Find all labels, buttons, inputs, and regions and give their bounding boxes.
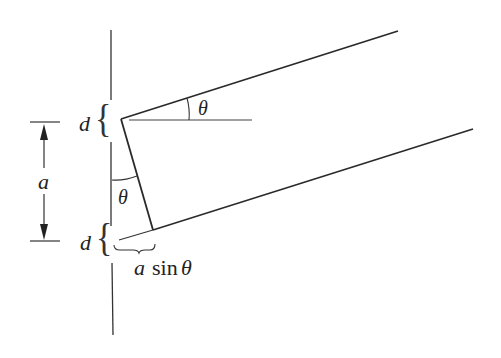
vertical-wall-line bbox=[111, 30, 113, 335]
label-theta-left: θ bbox=[118, 186, 128, 208]
label-theta-top: θ bbox=[198, 97, 208, 119]
label-a-sin-theta: a sin θ bbox=[134, 255, 192, 280]
label-d-bottom: d bbox=[80, 230, 92, 255]
label-a-sin-theta-sin: sin bbox=[152, 255, 178, 280]
label-a-sin-theta-a: a bbox=[134, 255, 145, 280]
a-sin-theta-brace bbox=[114, 244, 155, 253]
angle-arc-top bbox=[187, 98, 189, 120]
label-a-sin-theta-theta: θ bbox=[181, 255, 192, 280]
lower-extension-line bbox=[119, 230, 153, 240]
segment-a bbox=[121, 119, 153, 230]
angle-arc-left bbox=[112, 176, 137, 180]
label-a-dimension: a bbox=[38, 169, 49, 194]
lower-slanted-line bbox=[153, 129, 473, 230]
geometry-diagram: a d { d { θ θ a sin θ bbox=[0, 0, 501, 358]
brace-bottom: { bbox=[96, 215, 112, 260]
label-d-top: d bbox=[79, 111, 91, 136]
brace-top: { bbox=[95, 96, 111, 141]
upper-slanted-line bbox=[121, 31, 398, 119]
